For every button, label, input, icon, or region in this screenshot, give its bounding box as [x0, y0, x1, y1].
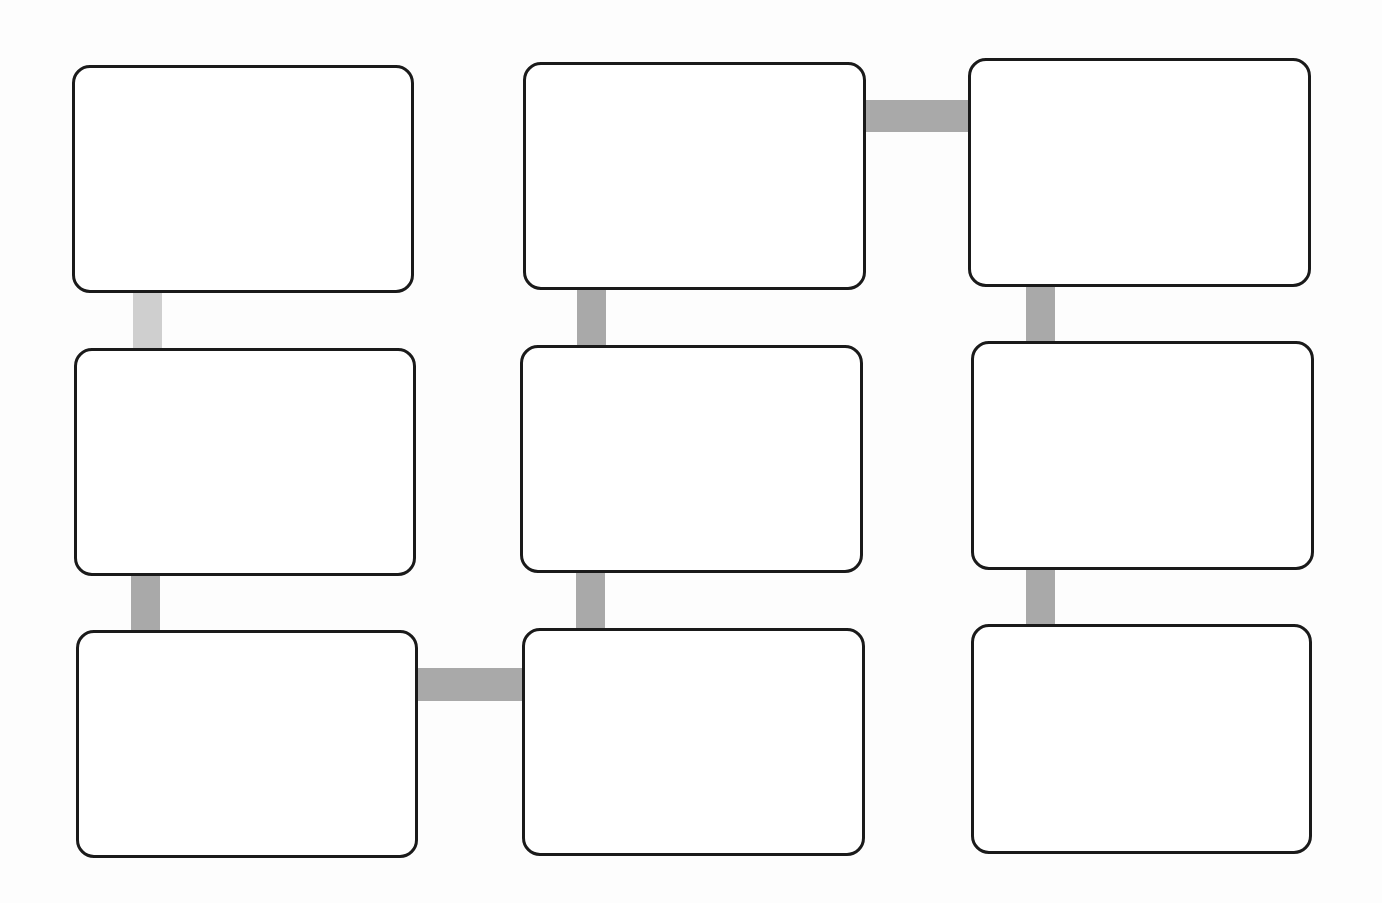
box-label [1135, 448, 1151, 464]
connector-r1c3-r2c3 [1026, 282, 1055, 346]
connector-r3c2-r2c2 [576, 568, 605, 632]
box-r1c2 [523, 62, 866, 290]
box-label [686, 734, 702, 750]
connector-r2c2-r1c2 [577, 285, 606, 349]
box-r3c2 [522, 628, 865, 856]
connector-r2c1-r3c1 [131, 571, 160, 634]
box-r3c3 [971, 624, 1312, 854]
diagram-canvas [0, 0, 1382, 903]
connector-r1c2-r1c3 [862, 100, 972, 132]
box-r2c2 [520, 345, 863, 573]
box-label [1132, 165, 1148, 181]
box-r2c3 [971, 341, 1314, 570]
connector-r2c3-r3c3 [1026, 565, 1055, 629]
box-label [239, 736, 255, 752]
box-r1c1 [72, 65, 414, 293]
connector-r3c1-r3c2 [413, 668, 527, 701]
box-label [237, 454, 253, 470]
box-r1c3 [968, 58, 1311, 287]
box-r3c1 [76, 630, 418, 858]
box-label [235, 171, 251, 187]
box-label [687, 168, 703, 184]
box-label [1134, 731, 1150, 747]
box-label [684, 451, 700, 467]
box-r2c1 [74, 348, 416, 576]
connector-r1c1-r2c1 [133, 288, 162, 352]
